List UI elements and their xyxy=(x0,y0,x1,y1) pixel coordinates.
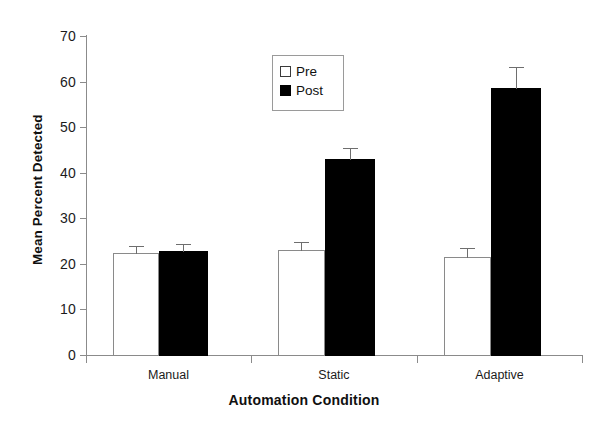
y-tick-label-60: 60 xyxy=(48,74,76,90)
legend-label-pre: Pre xyxy=(296,65,317,79)
error-bar-manual-pre xyxy=(136,246,137,254)
x-tick-mark xyxy=(251,356,252,363)
error-bar-adaptive-post xyxy=(516,67,517,89)
legend: Pre Post xyxy=(272,55,344,111)
y-tick-mark xyxy=(80,173,86,174)
error-bar-cap-adaptive-post xyxy=(509,67,524,68)
bar-static-post xyxy=(325,159,375,356)
x-tick-mark xyxy=(86,356,87,363)
y-tick-label-10: 10 xyxy=(48,301,76,317)
y-tick-label-50: 50 xyxy=(48,119,76,135)
error-bar-cap-manual-pre xyxy=(129,246,144,247)
legend-label-post: Post xyxy=(296,84,323,98)
error-bar-static-pre xyxy=(301,242,302,251)
bar-adaptive-pre xyxy=(444,257,491,356)
y-axis-line xyxy=(86,35,87,356)
y-tick-label-30: 30 xyxy=(48,210,76,226)
y-axis-title: Mean Percent Detected xyxy=(30,114,45,265)
error-bar-cap-static-pre xyxy=(294,242,309,243)
x-tick-label-static: Static xyxy=(251,368,417,382)
y-tick-mark xyxy=(80,309,86,310)
error-bar-manual-post xyxy=(183,244,184,252)
legend-entry-pre: Pre xyxy=(280,62,334,81)
x-tick-label-adaptive: Adaptive xyxy=(417,368,582,382)
y-tick-mark xyxy=(80,218,86,219)
x-axis-title: Automation Condition xyxy=(0,392,608,408)
bar-manual-post xyxy=(159,251,208,356)
x-tick-label-manual: Manual xyxy=(86,368,251,382)
y-tick-label-0: 0 xyxy=(48,347,76,363)
y-tick-label-20: 20 xyxy=(48,256,76,272)
y-tick-label-40: 40 xyxy=(48,165,76,181)
bar-static-pre xyxy=(278,250,325,356)
error-bar-cap-manual-post xyxy=(176,244,191,245)
y-tick-mark xyxy=(80,127,86,128)
y-tick-mark xyxy=(80,82,86,83)
bar-adaptive-post xyxy=(491,88,541,356)
error-bar-cap-adaptive-pre xyxy=(460,248,475,249)
error-bar-static-post xyxy=(350,148,351,160)
y-tick-mark xyxy=(80,36,86,37)
x-tick-mark xyxy=(582,356,583,363)
filled-square-swatch-icon xyxy=(280,85,291,96)
bar-chart-figure: Mean Percent Detected 0 10 20 30 40 50 6… xyxy=(0,0,608,441)
bar-manual-pre xyxy=(113,253,159,356)
y-tick-mark xyxy=(80,264,86,265)
x-tick-mark xyxy=(417,356,418,363)
y-tick-label-70: 70 xyxy=(48,28,76,44)
legend-entry-post: Post xyxy=(280,81,334,100)
error-bar-cap-static-post xyxy=(343,148,358,149)
open-square-swatch-icon xyxy=(280,66,291,77)
error-bar-adaptive-pre xyxy=(467,248,468,258)
